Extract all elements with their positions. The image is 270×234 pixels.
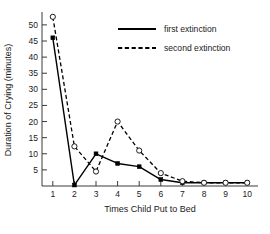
data-point-first-extinction xyxy=(137,165,141,169)
y-tick-label: 45 xyxy=(29,36,39,46)
series-group xyxy=(50,14,250,187)
x-axis-ticks: 12345678910 xyxy=(50,181,252,199)
y-tick-label: 25 xyxy=(29,100,39,110)
data-point-second-extinction xyxy=(158,171,163,176)
y-tick-label: 10 xyxy=(29,149,39,159)
data-point-second-extinction xyxy=(137,148,142,153)
data-point-first-extinction xyxy=(159,178,163,182)
y-axis-ticks: 5101520253035404550 xyxy=(29,20,47,175)
legend-label-second-extinction: second extinction xyxy=(164,43,231,53)
data-point-second-extinction xyxy=(115,119,120,124)
x-tick-label: 4 xyxy=(115,189,120,199)
y-tick-label: 30 xyxy=(29,84,39,94)
line-chart: 5101520253035404550 12345678910 first ex… xyxy=(0,0,270,234)
x-tick-label: 2 xyxy=(72,189,77,199)
x-tick-label: 3 xyxy=(94,189,99,199)
y-tick-label: 20 xyxy=(29,117,39,127)
y-tick-label: 5 xyxy=(33,165,38,175)
chart-container: 5101520253035404550 12345678910 first ex… xyxy=(0,0,270,234)
x-tick-label: 8 xyxy=(202,189,207,199)
data-point-second-extinction xyxy=(223,180,228,185)
data-point-second-extinction xyxy=(245,180,250,185)
y-tick-label: 40 xyxy=(29,52,39,62)
x-tick-label: 7 xyxy=(180,189,185,199)
y-tick-label: 50 xyxy=(29,20,39,30)
legend-label-first-extinction: first extinction xyxy=(164,24,217,34)
x-tick-label: 5 xyxy=(137,189,142,199)
y-tick-label: 15 xyxy=(29,133,39,143)
chart-legend: first extinction second extinction xyxy=(118,24,231,53)
x-tick-label: 9 xyxy=(223,189,228,199)
x-tick-label: 6 xyxy=(158,189,163,199)
data-point-second-extinction xyxy=(180,179,185,184)
x-tick-label: 10 xyxy=(242,189,252,199)
x-tick-label: 1 xyxy=(50,189,55,199)
series-line-second-extinction xyxy=(53,17,247,183)
series-line-first-extinction xyxy=(53,38,247,185)
data-point-second-extinction xyxy=(93,169,98,174)
y-axis-title: Duration of Crying (minutes) xyxy=(3,44,13,157)
data-point-first-extinction xyxy=(51,36,55,40)
y-tick-label: 35 xyxy=(29,68,39,78)
data-point-first-extinction xyxy=(116,162,120,166)
data-point-first-extinction xyxy=(73,183,77,187)
data-point-second-extinction xyxy=(201,180,206,185)
x-axis-title: Times Child Put to Bed xyxy=(104,204,196,214)
data-point-second-extinction xyxy=(50,14,55,19)
data-point-first-extinction xyxy=(94,152,98,156)
data-point-second-extinction xyxy=(72,144,77,149)
